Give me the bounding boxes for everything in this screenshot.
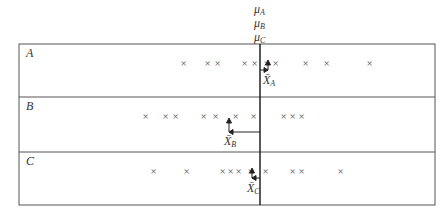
data-point-mark: × [205, 57, 211, 69]
mu-a-label: μA [253, 2, 265, 17]
row-label: B [26, 99, 34, 113]
row-label: C [26, 154, 35, 168]
data-point-mark: × [242, 57, 248, 69]
sampling-diagram: μA μB μC A××××××××××X̄AB××××××××××X̄BC××… [0, 0, 448, 218]
data-point-mark: × [324, 57, 330, 69]
data-point-mark: × [233, 110, 239, 122]
data-point-mark: × [213, 110, 219, 122]
data-point-mark: × [236, 165, 242, 177]
data-point-mark: × [281, 110, 287, 122]
data-point-mark: × [151, 165, 157, 177]
row-label: A [25, 46, 34, 60]
data-point-mark: × [263, 165, 269, 177]
mu-c-label: μC [253, 30, 266, 45]
data-point-mark: × [367, 57, 373, 69]
data-point-mark: × [290, 110, 296, 122]
data-point-mark: × [201, 110, 207, 122]
data-point-mark: × [228, 165, 234, 177]
population-mean-labels: μA μB μC [253, 2, 266, 45]
data-point-mark: × [184, 165, 190, 177]
mu-b-label: μB [253, 16, 265, 31]
data-point-mark: × [251, 110, 257, 122]
data-point-mark: × [273, 57, 279, 69]
sample-mean-label: X̄C [246, 181, 260, 196]
data-point-mark: × [252, 57, 258, 69]
data-point-mark: × [338, 165, 344, 177]
data-point-mark: × [143, 110, 149, 122]
data-point-mark: × [220, 165, 226, 177]
data-point-mark: × [299, 110, 305, 122]
row-b: B××××××××××X̄B [26, 99, 305, 149]
data-point-mark: × [299, 165, 305, 177]
data-point-mark: × [181, 57, 187, 69]
row-c: C××××××××××X̄C [26, 154, 344, 196]
data-point-mark: × [290, 165, 296, 177]
data-point-mark: × [163, 110, 169, 122]
data-point-mark: × [303, 57, 309, 69]
sample-mean-label: X̄A [262, 73, 275, 88]
row-a: A××××××××××X̄A [25, 46, 373, 88]
data-point-mark: × [215, 57, 221, 69]
sample-mean-label: X̄B [223, 134, 236, 149]
data-point-mark: × [173, 110, 179, 122]
rows: A××××××××××X̄AB××××××××××X̄BC××××××××××X… [25, 46, 373, 196]
